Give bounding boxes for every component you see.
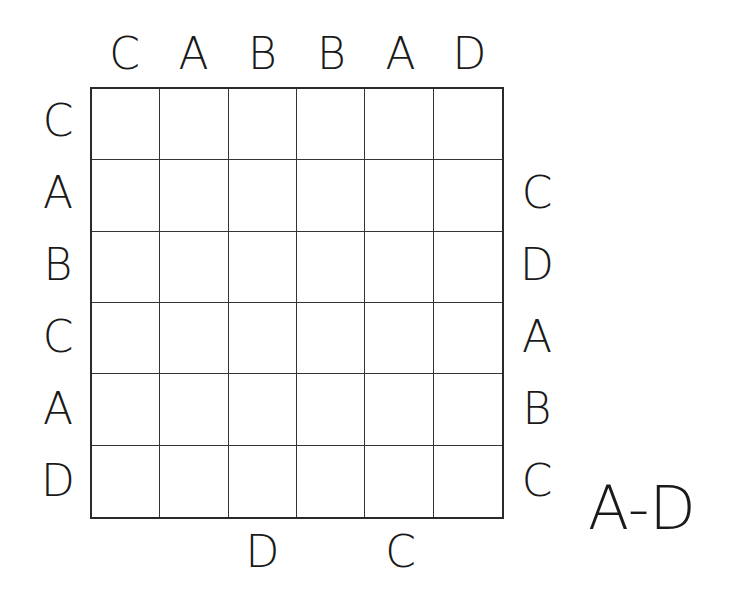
letter-range-label: A-D: [588, 478, 696, 538]
right-clue: C: [507, 459, 567, 503]
grid-cell[interactable]: [365, 160, 433, 231]
right-clue: D: [507, 243, 567, 287]
left-clue: A: [28, 387, 88, 431]
grid-cell[interactable]: [160, 232, 228, 303]
grid-cell[interactable]: [434, 232, 502, 303]
grid-cell[interactable]: [92, 232, 160, 303]
grid-cell[interactable]: [297, 374, 365, 445]
grid-cell[interactable]: [229, 446, 297, 517]
top-clue: B: [302, 32, 362, 76]
grid-cell[interactable]: [229, 374, 297, 445]
grid-cell[interactable]: [434, 89, 502, 160]
left-clue: C: [28, 99, 88, 143]
top-clue: D: [440, 32, 500, 76]
grid-cell[interactable]: [160, 160, 228, 231]
grid-cell[interactable]: [229, 89, 297, 160]
grid-cell[interactable]: [92, 374, 160, 445]
grid-cell[interactable]: [365, 374, 433, 445]
grid-cell[interactable]: [229, 160, 297, 231]
grid-cell[interactable]: [297, 232, 365, 303]
top-clue: C: [95, 32, 155, 76]
top-clue: A: [164, 32, 224, 76]
grid-cell[interactable]: [365, 232, 433, 303]
bottom-clue: C: [371, 530, 431, 574]
grid-cell[interactable]: [297, 446, 365, 517]
grid-cell[interactable]: [160, 446, 228, 517]
grid-cell[interactable]: [365, 89, 433, 160]
grid-cell[interactable]: [229, 303, 297, 374]
grid-cell[interactable]: [160, 303, 228, 374]
grid-cell[interactable]: [92, 303, 160, 374]
bottom-clue: D: [233, 530, 293, 574]
grid-cell[interactable]: [434, 303, 502, 374]
grid-cell[interactable]: [297, 89, 365, 160]
grid-cell[interactable]: [434, 160, 502, 231]
grid-cell[interactable]: [92, 160, 160, 231]
grid-cell[interactable]: [434, 374, 502, 445]
top-clue: A: [371, 32, 431, 76]
right-clue: A: [507, 315, 567, 359]
grid-cell[interactable]: [297, 303, 365, 374]
top-clue: B: [233, 32, 293, 76]
grid-cell[interactable]: [297, 160, 365, 231]
right-clue: C: [507, 171, 567, 215]
grid-cell[interactable]: [365, 446, 433, 517]
grid-cell[interactable]: [160, 89, 228, 160]
grid-cell[interactable]: [160, 374, 228, 445]
grid-cell[interactable]: [434, 446, 502, 517]
grid-cell[interactable]: [92, 446, 160, 517]
left-clue: A: [28, 171, 88, 215]
grid-cell[interactable]: [229, 232, 297, 303]
left-clue: B: [28, 243, 88, 287]
left-clue: C: [28, 315, 88, 359]
grid-cell[interactable]: [92, 89, 160, 160]
right-clue: B: [507, 387, 567, 431]
left-clue: D: [28, 459, 88, 503]
grid-cell[interactable]: [365, 303, 433, 374]
puzzle-grid: [90, 87, 504, 519]
